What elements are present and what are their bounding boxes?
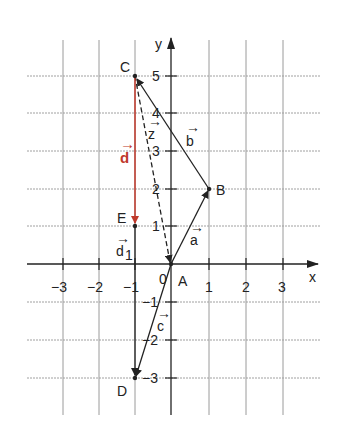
svg-text:d: d [120,149,129,166]
vector-z [135,76,170,262]
svg-text:c: c [157,318,164,334]
point-b-dot [207,187,211,191]
svg-text:a: a [190,232,198,248]
y-tick-label: 1 [152,218,160,234]
x-tick-label: 2 [242,279,250,295]
point-b-label: B [216,182,225,198]
point-e-dot [133,224,137,228]
y-tick-label: −3 [142,370,158,386]
x-tick-label: −2 [87,279,103,295]
point-e-label: E [117,210,126,226]
x-tick-label: 1 [205,279,213,295]
vector-label-b: → b [186,119,200,149]
point-a-label: A [178,273,188,289]
vector-label-d: → d [120,135,135,166]
y-axis-label: y [155,36,162,52]
y-tick-label: −1 [142,294,158,310]
point-c-label: C [120,59,130,75]
svg-text:b: b [186,133,194,149]
vector-label-z: → z [148,113,162,142]
horizontal-grid [27,76,320,378]
y-tick-label: 5 [152,68,160,84]
point-d-label: D [117,383,127,399]
vector-label-d1: → d 1 [116,230,133,263]
svg-text:1: 1 [125,247,133,263]
x-tick-label: 3 [278,279,286,295]
point-c-dot [133,74,137,78]
vector-label-c: → c [157,305,171,334]
y-tick-label: 3 [152,143,160,159]
point-d-dot [133,376,137,380]
vector-diagram: x y 0 −3 −2 −1 1 2 3 5 4 3 2 1 −1 −2 −3 … [0,0,338,435]
x-tick-label: −3 [51,279,67,295]
vector-label-a: → a [190,219,204,248]
y-tick-label: −2 [142,332,158,348]
x-tick-label: −1 [123,279,139,295]
svg-text:d: d [116,243,124,259]
x-axis-label: x [309,269,316,285]
svg-text:z: z [148,126,155,142]
vertical-grid [63,40,283,415]
point-a-dot [169,262,173,266]
